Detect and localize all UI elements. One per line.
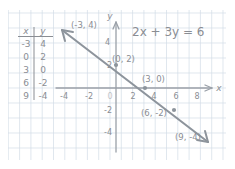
point-label: (9, -4) <box>175 132 201 142</box>
point-label: (-3, 4) <box>71 20 97 30</box>
x-tick-label: 2 <box>130 92 135 101</box>
table-cell-y: -2 <box>39 78 48 88</box>
x-tick-label: 0 <box>107 92 112 101</box>
data-point <box>143 86 147 90</box>
table-cell-x: 0 <box>23 52 29 62</box>
point-label: (0, 2) <box>112 54 135 64</box>
y-axis-label: y <box>106 11 113 21</box>
y-tick-label: 4 <box>105 38 110 47</box>
x-tick-label: 8 <box>194 92 199 101</box>
point-label: (6, -2) <box>141 108 167 118</box>
x-tick-label: -4 <box>60 92 68 101</box>
x-axis-label: x <box>215 83 222 93</box>
table-cell-x: -3 <box>22 39 31 49</box>
table-header-y: y <box>39 26 46 36</box>
y-tick-label: -2 <box>104 106 112 115</box>
table-header-x: x <box>22 26 29 36</box>
table-cell-y: -4 <box>39 91 48 101</box>
table-cell-y: 0 <box>40 65 46 75</box>
point-label: (3, 0) <box>142 74 165 84</box>
table-cell-x: 9 <box>23 91 29 101</box>
data-point <box>172 108 176 112</box>
table-cell-x: 6 <box>23 78 29 88</box>
y-tick-label: -4 <box>104 128 112 137</box>
x-tick-label: -2 <box>85 92 93 101</box>
table-cell-x: 3 <box>23 65 29 75</box>
table-cell-y: 2 <box>40 52 46 62</box>
equation-annotation: 2x + 3y = 6 <box>132 25 204 39</box>
table-cell-y: 4 <box>40 39 46 49</box>
graph-figure: x y -4 -2 0 2 4 6 8 4 2 -2 -4 <box>0 0 235 169</box>
coordinate-plane: x y -4 -2 0 2 4 6 8 4 2 -2 -4 <box>0 0 235 169</box>
x-tick-label: 6 <box>173 92 178 101</box>
